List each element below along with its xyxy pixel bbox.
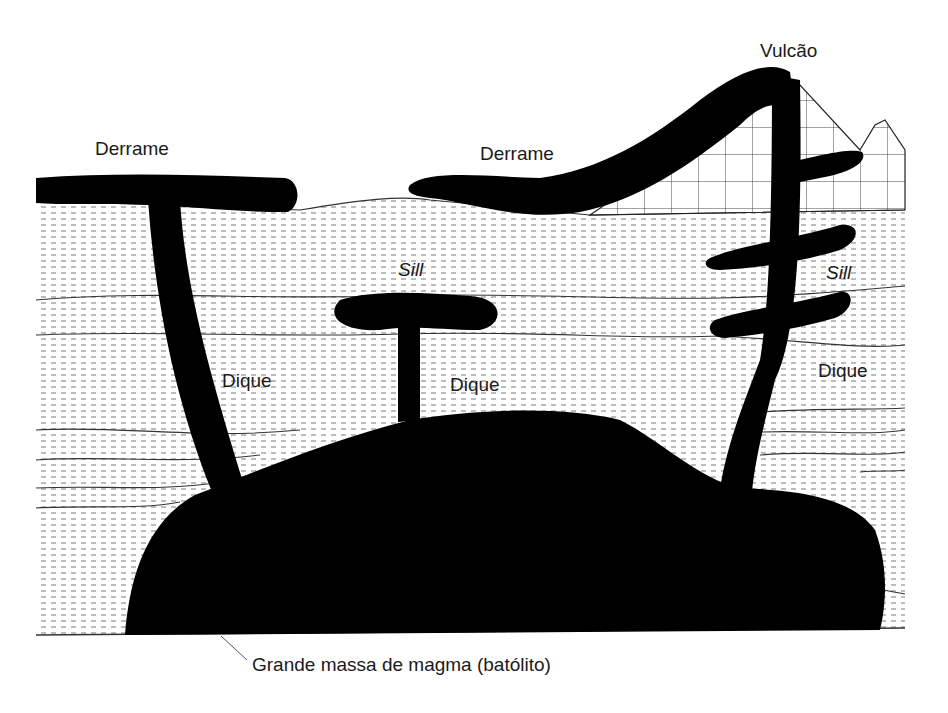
geological-diagram bbox=[0, 0, 948, 713]
label-vulcao: Vulcão bbox=[760, 40, 817, 62]
label-derrame-right: Derrame bbox=[480, 143, 554, 165]
label-batolito: Grande massa de magma (batólito) bbox=[252, 654, 551, 676]
dique-center bbox=[398, 320, 420, 422]
label-dique-center: Dique bbox=[450, 374, 500, 396]
label-sill-right: Sill bbox=[826, 262, 851, 284]
label-dique-left: Dique bbox=[222, 370, 272, 392]
label-sill-center: Sill bbox=[398, 259, 423, 281]
label-derrame-left: Derrame bbox=[95, 138, 169, 160]
label-dique-right: Dique bbox=[818, 360, 868, 382]
batolito-leader-line bbox=[221, 636, 247, 660]
